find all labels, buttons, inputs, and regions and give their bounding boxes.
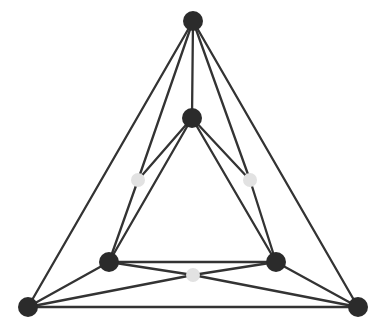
graph-vertex-inner-left[interactable] — [99, 252, 119, 272]
graph-vertex-gray-right[interactable] — [243, 173, 257, 187]
graph-vertex-gray-bottom[interactable] — [186, 268, 200, 282]
graph-vertex-corner-left[interactable] — [18, 297, 38, 317]
graph-vertex-corner-right[interactable] — [348, 297, 368, 317]
graph-vertex-gray-left[interactable] — [131, 173, 145, 187]
graph-vertex-inner-top[interactable] — [182, 108, 202, 128]
graph-vertex-apex[interactable] — [183, 11, 203, 31]
graph-vertex-inner-right[interactable] — [266, 252, 286, 272]
graph-edge-apex-to-inner-top — [192, 21, 193, 118]
graph-drawing — [0, 0, 388, 331]
figure-root — [0, 0, 388, 331]
